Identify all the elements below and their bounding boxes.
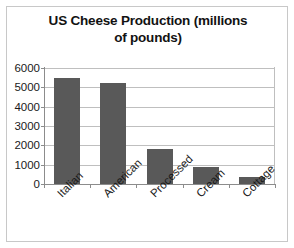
chart-container: US Cheese Production (millions of pounds… xyxy=(0,0,294,248)
chart-title: US Cheese Production (millions of pounds… xyxy=(20,12,276,46)
bar-series xyxy=(44,68,275,184)
chart-title-line-1: US Cheese Production (millions xyxy=(20,12,276,29)
y-axis-tick-label: 5000 xyxy=(4,81,40,93)
y-axis-tick-label: 3000 xyxy=(4,120,40,132)
x-axis-tick-mark xyxy=(275,184,276,188)
y-axis-tick-label: 6000 xyxy=(4,62,40,74)
x-axis-tick-mark xyxy=(44,184,45,188)
x-axis-tick-mark xyxy=(90,184,91,188)
y-axis-tick-label: 4000 xyxy=(4,101,40,113)
y-axis-tick-label: 2000 xyxy=(4,139,40,151)
y-axis-tick-labels: 6000500040003000200010000 xyxy=(0,0,40,248)
y-axis-tick-label: 0 xyxy=(4,178,40,190)
chart-title-line-2: of pounds) xyxy=(20,29,276,46)
x-axis-tick-mark xyxy=(183,184,184,188)
y-axis-tick-label: 1000 xyxy=(4,159,40,171)
x-axis-tick-mark xyxy=(229,184,230,188)
x-axis-tick-mark xyxy=(136,184,137,188)
